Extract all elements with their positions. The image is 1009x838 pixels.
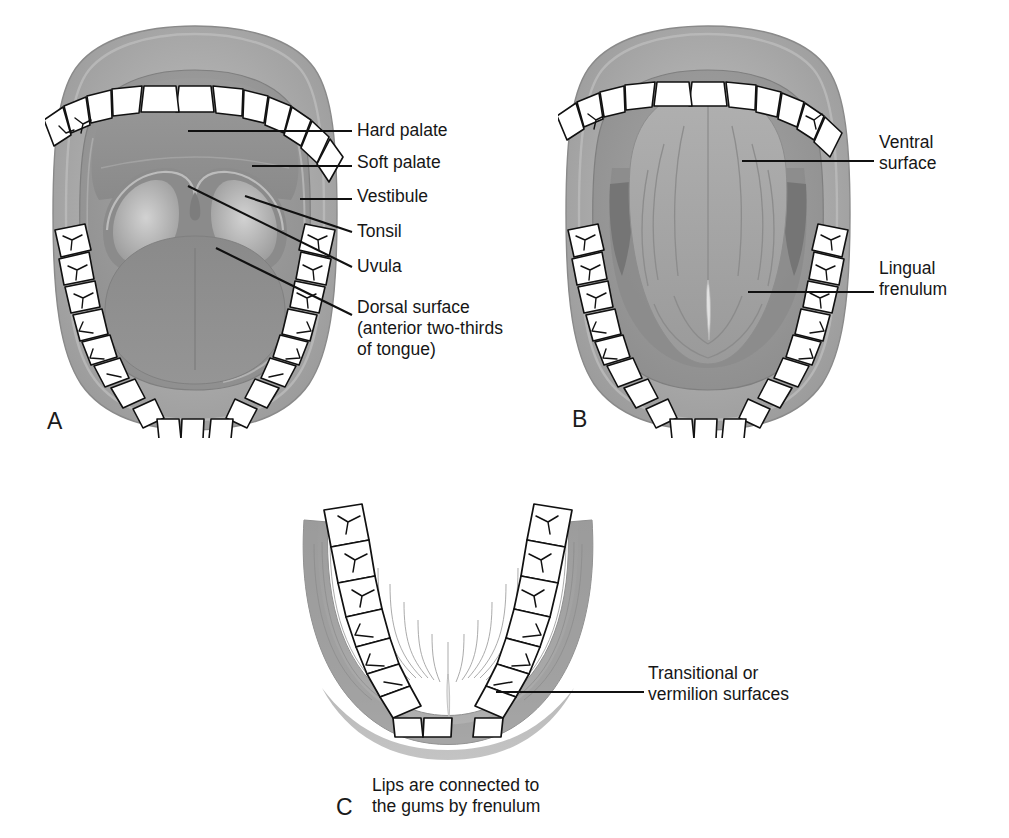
label-dorsal-surface: Dorsal surface (anterior two-thirds of t… bbox=[357, 297, 503, 360]
label-vermilion-surfaces: Transitional or vermilion surfaces bbox=[648, 663, 789, 705]
panel-letter-a: A bbox=[47, 408, 62, 435]
label-tonsil: Tonsil bbox=[357, 221, 402, 242]
label-vestibule: Vestibule bbox=[357, 186, 428, 207]
labial-frenulum-shape bbox=[447, 674, 450, 720]
label-soft-palate: Soft palate bbox=[357, 152, 441, 173]
panel-letter-c: C bbox=[336, 794, 353, 821]
figure-page: Hard palate Soft palate Vestibule Tonsil… bbox=[0, 0, 1009, 838]
panel-c-illustration bbox=[268, 492, 628, 767]
caption-panel-c: Lips are connected to the gums by frenul… bbox=[372, 775, 540, 817]
label-lingual-frenulum: Lingual frenulum bbox=[879, 258, 947, 300]
panel-letter-b: B bbox=[572, 406, 587, 433]
label-hard-palate: Hard palate bbox=[357, 120, 447, 141]
label-uvula: Uvula bbox=[357, 256, 402, 277]
label-ventral-surface: Ventral surface bbox=[879, 132, 936, 174]
panel-b-illustration bbox=[558, 18, 858, 438]
panel-a-illustration bbox=[45, 18, 345, 438]
tongue-dorsal bbox=[105, 236, 285, 384]
